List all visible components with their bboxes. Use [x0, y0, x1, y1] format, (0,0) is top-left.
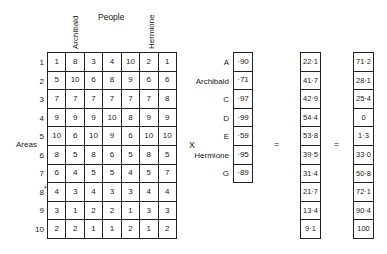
result-cell: 22·1	[301, 53, 321, 72]
matrix-cell: 1	[84, 220, 102, 239]
matrix-cell: 2	[121, 220, 139, 239]
matrix-row: 3122133	[48, 201, 177, 220]
matrix-cell: 2	[103, 201, 121, 220]
matrix-cell: 6	[84, 71, 102, 90]
matrix-cell: 5	[158, 145, 176, 164]
matrix-cell: 3	[158, 201, 176, 220]
matrix-cell: 9	[103, 127, 121, 146]
matrix-cell: 3	[66, 183, 84, 202]
matrix-cell: 1	[158, 53, 176, 72]
row-label: 2	[30, 77, 44, 86]
matrix-cell: 6	[140, 71, 158, 90]
matrix-cell: 3	[48, 201, 66, 220]
matrix-cell: 6	[48, 164, 66, 183]
matrix-cell: 10	[84, 127, 102, 146]
matrix-cell: 7	[66, 90, 84, 109]
result-cell: 9·1	[301, 220, 321, 239]
matrix-row: 18341021	[48, 53, 177, 72]
result-cell: 0	[354, 108, 374, 127]
matrix-cell: 9	[84, 108, 102, 127]
people-label: People	[98, 12, 124, 22]
result-cell: 71·2	[354, 53, 374, 72]
matrix-cell: 5	[103, 164, 121, 183]
weight-cell: ·95	[234, 145, 253, 164]
result-vector-1: 22·141·742·954·453·839·531·421·713·49·1	[300, 52, 321, 239]
matrix-cell: 7	[140, 90, 158, 109]
matrix-cell: 8	[48, 145, 66, 164]
matrix-cell: 10	[103, 108, 121, 127]
matrix-cell: 6	[158, 71, 176, 90]
result-cell: 28·1	[354, 71, 374, 90]
weight-label: E	[179, 132, 229, 141]
weight-cell: ·89	[234, 164, 253, 183]
matrix-row: 6455457	[48, 164, 177, 183]
matrix-cell: 4	[158, 183, 176, 202]
weight-label: Archibald	[179, 77, 229, 86]
matrix-cell: 9	[140, 108, 158, 127]
matrix-cell: 4	[103, 53, 121, 72]
matrix-cell: 4	[84, 183, 102, 202]
matrix-cell: 3	[103, 183, 121, 202]
matrix-cell: 7	[158, 164, 176, 183]
weight-cell: ·97	[234, 90, 253, 109]
row-label: 5	[30, 132, 44, 141]
matrix-cell: 6	[103, 145, 121, 164]
weight-cell: ·59	[234, 127, 253, 146]
matrix-row: 8586585	[48, 145, 177, 164]
result-cell: 13·4	[301, 201, 321, 220]
matrix-cell: 2	[158, 220, 176, 239]
matrix-cell: 1	[66, 201, 84, 220]
result-cell: 31·4	[301, 164, 321, 183]
matrix-cell: 10	[140, 127, 158, 146]
matrix-cell: 8	[121, 108, 139, 127]
matrix-cell: 1	[140, 220, 158, 239]
row-label: 6	[30, 151, 44, 160]
matrix-cell: 10	[48, 127, 66, 146]
matrix-cell: 1	[103, 220, 121, 239]
matrix-cell: 4	[66, 164, 84, 183]
matrix-cell: 2	[48, 220, 66, 239]
matrix-cell: 8	[84, 145, 102, 164]
result-cell: 50·8	[354, 164, 374, 183]
row-label: 4	[30, 114, 44, 123]
matrix-row: 10610961010	[48, 127, 177, 146]
matrix-cell: 8	[66, 53, 84, 72]
matrix-cell: 10	[66, 71, 84, 90]
column-header-archibald: Archibald	[71, 16, 80, 49]
matrix-cell: 7	[103, 90, 121, 109]
weight-label: D	[179, 114, 229, 123]
matrix-row: 51068966	[48, 71, 177, 90]
row-label: 7	[30, 169, 44, 178]
matrix-row: 7777778	[48, 90, 177, 109]
matrix-cell: 5	[66, 145, 84, 164]
matrix-cell: 8	[140, 145, 158, 164]
people-areas-matrix: 1834102151068966777777899910899106109610…	[47, 52, 177, 239]
result-vector-2: 71·228·125·401·333·050·872·190·4100	[353, 52, 374, 239]
matrix-cell: 4	[140, 183, 158, 202]
row-label: 3	[30, 95, 44, 104]
matrix-cell: 6	[121, 127, 139, 146]
result-cell: 100	[354, 220, 374, 239]
result-cell: 33·0	[354, 145, 374, 164]
result-cell: 41·7	[301, 71, 321, 90]
equals-operator-1: =	[274, 139, 279, 149]
weight-cell: ·99	[234, 108, 253, 127]
matrix-cell: 5	[84, 164, 102, 183]
matrix-cell: 2	[84, 201, 102, 220]
matrix-cell: 2	[66, 220, 84, 239]
matrix-cell: 3	[121, 183, 139, 202]
matrix-cell: 9	[66, 108, 84, 127]
matrix-row: 2211212	[48, 220, 177, 239]
matrix-cell: 5	[140, 164, 158, 183]
row-label: 10	[30, 225, 44, 234]
result-cell: 21·7	[301, 183, 321, 202]
matrix-cell: 8	[103, 71, 121, 90]
matrix-row: 4343344	[48, 183, 177, 202]
result-cell: 42·9	[301, 90, 321, 109]
result-cell: 39·5	[301, 145, 321, 164]
matrix-cell: 10	[121, 53, 139, 72]
weight-vector: ·90·71·97·99·59·95·89	[233, 52, 253, 183]
result-cell: 90·4	[354, 201, 374, 220]
column-header-hermione: Hermione	[147, 14, 156, 49]
matrix-cell: 4	[48, 183, 66, 202]
